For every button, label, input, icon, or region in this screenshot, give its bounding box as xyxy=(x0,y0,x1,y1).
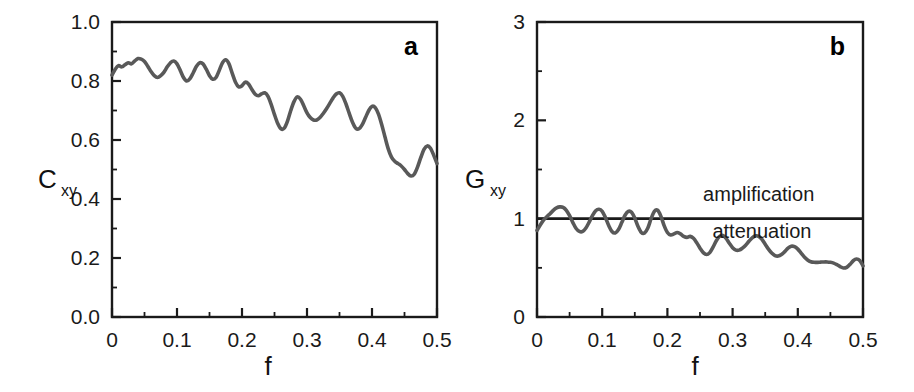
panel-a-y-axis-title: C xyxy=(38,164,57,194)
panel-a: 00.10.20.30.40.5 0.00.20.40.60.81.0 C xy… xyxy=(0,0,457,392)
x-tick-label: 0.4 xyxy=(357,328,387,351)
x-tick-label: 0.1 xyxy=(162,328,191,351)
panel-b-x-axis-title: f xyxy=(691,351,699,381)
panel-b-annotation-amplification: amplification xyxy=(703,183,814,205)
panel-a-plot-frame xyxy=(112,22,437,317)
y-tick-label: 2 xyxy=(513,108,525,131)
panel-b-annotation-attenuation: attenuation xyxy=(712,220,811,242)
y-tick-label: 0.0 xyxy=(71,305,100,328)
panel-a-letter: a xyxy=(404,32,419,60)
panel-a-y-axis-title-subscript: xy xyxy=(61,182,77,199)
panel-a-ticks xyxy=(112,22,437,317)
figure-container: 00.10.20.30.40.5 0.00.20.40.60.81.0 C xy… xyxy=(0,0,914,392)
x-tick-label: 0.1 xyxy=(588,328,617,351)
panel-a-svg: 00.10.20.30.40.5 0.00.20.40.60.81.0 C xy… xyxy=(0,0,457,392)
panel-b-letter: b xyxy=(830,32,845,60)
y-tick-label: 0 xyxy=(513,305,525,328)
panel-b-svg: 00.10.20.30.40.5 0123 amplification atte… xyxy=(457,0,914,392)
y-tick-label: 0.8 xyxy=(71,69,100,92)
x-tick-label: 0 xyxy=(531,328,543,351)
y-tick-label: 0.6 xyxy=(71,128,100,151)
x-tick-label: 0.3 xyxy=(718,328,747,351)
panel-a-data-curve xyxy=(112,58,437,176)
panel-a-y-ticklabels: 0.00.20.40.60.81.0 xyxy=(71,10,101,328)
panel-b-y-axis-title: G xyxy=(465,164,485,194)
panel-b: 00.10.20.30.40.5 0123 amplification atte… xyxy=(457,0,914,392)
x-tick-label: 0 xyxy=(106,328,118,351)
x-tick-label: 0.5 xyxy=(422,328,451,351)
x-tick-label: 0.3 xyxy=(292,328,321,351)
x-tick-label: 0.2 xyxy=(227,328,256,351)
panel-a-x-ticklabels: 00.10.20.30.40.5 xyxy=(106,328,451,351)
y-tick-label: 3 xyxy=(513,10,525,33)
panel-b-x-ticklabels: 00.10.20.30.40.5 xyxy=(531,328,877,351)
panel-b-plot-frame xyxy=(537,22,863,317)
panel-b-data-curve xyxy=(537,207,863,268)
x-tick-label: 0.4 xyxy=(783,328,813,351)
y-tick-label: 1 xyxy=(513,207,525,230)
y-tick-label: 1.0 xyxy=(71,10,100,33)
panel-b-y-ticklabels: 0123 xyxy=(513,10,525,328)
panel-b-ticks xyxy=(537,22,863,317)
panel-a-x-axis-title: f xyxy=(264,351,272,381)
x-tick-label: 0.5 xyxy=(848,328,877,351)
panel-b-y-axis-title-subscript: xy xyxy=(490,182,506,199)
y-tick-label: 0.2 xyxy=(71,246,100,269)
x-tick-label: 0.2 xyxy=(653,328,682,351)
